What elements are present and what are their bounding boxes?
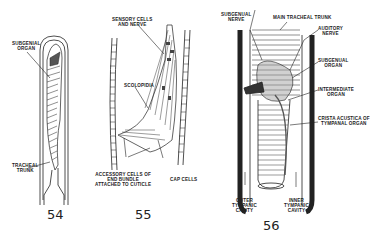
figure-number-54: 54 — [47, 207, 64, 222]
label-crista-acustica: CRISTA ACUSTICA OF TYMPANAL ORGAN — [318, 116, 370, 126]
label-line: TYMPANAL ORGAN — [318, 121, 370, 126]
label-line: ORGAN — [318, 63, 348, 68]
label-line: CAVITY — [284, 208, 309, 213]
label-line: CAP CELLS — [170, 177, 197, 182]
figure-56-drawing — [240, 10, 318, 212]
label-line: ATTACHED TO CUTICLE — [95, 182, 151, 187]
label-cap-cells: CAP CELLS — [170, 177, 197, 182]
label-sensory-cells: SENSORY CELLS AND NERVE — [112, 17, 153, 27]
label-subgenual-organ-56: SUBGENUAL ORGAN — [318, 58, 348, 68]
label-subgenual-organ-54: SUBGENIAL ORGAN — [12, 41, 40, 51]
label-line: SCOLOPIDIA — [124, 83, 154, 88]
label-line: NERVE — [318, 31, 343, 36]
label-tracheal-trunk-54: TRACHEAL TRUNK — [12, 163, 38, 173]
figure-55-drawing — [110, 25, 190, 170]
figure-number-56: 56 — [263, 218, 280, 233]
label-subgenual-nerve: SUBGENUAL NERVE — [221, 12, 251, 22]
label-main-tracheal-trunk: MAIN TRACHEAL TRUNK — [273, 15, 331, 20]
label-auditory-nerve: AUDITORY NERVE — [318, 26, 343, 36]
label-line: TRUNK — [12, 168, 38, 173]
label-line: CAVITY — [232, 208, 257, 213]
label-line: MAIN TRACHEAL TRUNK — [273, 15, 331, 20]
label-line: ORGAN — [318, 92, 354, 97]
label-inner-tympanic-cavity: INNER TYMPANIC CAVITY — [284, 198, 309, 214]
label-scolopidia: SCOLOPIDIA — [124, 83, 154, 88]
label-accessory-cells: ACCESSORY CELLS OF END BUNDLE ATTACHED T… — [95, 172, 151, 188]
label-outer-tympanic-cavity: OUTER TYMPANIC CAVITY — [232, 198, 257, 214]
label-line: ORGAN — [12, 46, 40, 51]
label-line: NERVE — [221, 17, 251, 22]
label-line: AND NERVE — [112, 22, 153, 27]
label-intermediate-organ: INTERMEDIATE ORGAN — [318, 87, 354, 97]
figure-number-55: 55 — [135, 207, 152, 222]
figure-54-drawing — [27, 36, 68, 205]
